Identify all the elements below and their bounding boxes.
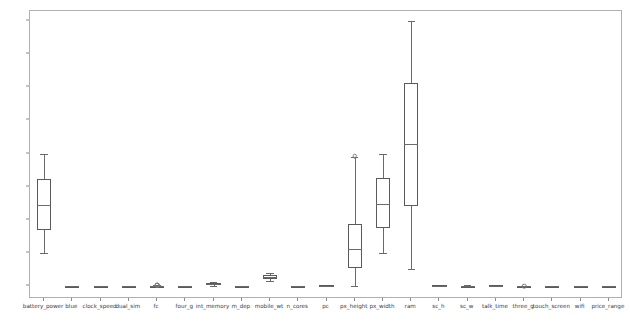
- x-axis-tick-label: clock_speed: [83, 304, 117, 310]
- box-plots-layer: [30, 11, 621, 297]
- x-axis-tick-label: px_height: [340, 304, 368, 310]
- x-axis-tick-label: price_range: [591, 304, 624, 310]
- x-axis-tick-mark: [269, 298, 270, 301]
- x-axis-tick-label: sc_h: [432, 304, 444, 310]
- x-axis-tick-mark: [551, 298, 552, 301]
- x-axis-tick-label: sc_w: [460, 304, 473, 310]
- x-axis-tick-label: m_dep: [231, 304, 250, 310]
- x-axis-tick-mark: [43, 298, 44, 301]
- x-axis-tick-label: n_cores: [287, 304, 308, 310]
- x-axis-tick-label: pc: [322, 304, 329, 310]
- x-axis-tick-label: mobile_wt: [255, 304, 284, 310]
- x-axis-tick-label: int_memory: [196, 304, 229, 310]
- x-axis-tick-label: three_g: [513, 304, 534, 310]
- x-axis-tick-mark: [382, 298, 383, 301]
- x-axis-tick-mark: [213, 298, 214, 301]
- x-axis-tick-mark: [71, 298, 72, 301]
- plot-area: [29, 10, 622, 298]
- x-axis-tick-mark: [523, 298, 524, 301]
- x-axis-tick-label: battery_power: [23, 304, 64, 310]
- x-axis-tick-mark: [241, 298, 242, 301]
- x-axis-tick-mark: [608, 298, 609, 301]
- x-axis-tick-mark: [326, 298, 327, 301]
- x-axis-tick-label: blue: [65, 304, 77, 310]
- x-axis-tick-label: wifi: [575, 304, 585, 310]
- x-axis-tick-mark: [467, 298, 468, 301]
- boxplot-figure: 05001000150020002500300035004000 battery…: [0, 0, 630, 324]
- x-axis-tick-mark: [156, 298, 157, 301]
- x-axis-tick-label: fc: [154, 304, 159, 310]
- x-axis-tick-label: four_g: [176, 304, 194, 310]
- x-axis-tick-label: dual_sim: [115, 304, 140, 310]
- x-axis-tick-mark: [438, 298, 439, 301]
- x-axis-tick-label: talk_time: [482, 304, 508, 310]
- x-axis-tick-mark: [184, 298, 185, 301]
- x-axis-tick-mark: [100, 298, 101, 301]
- box-plot-price_range: [30, 11, 621, 297]
- x-axis-tick-label: ram: [405, 304, 416, 310]
- x-axis-tick-label: px_width: [369, 304, 394, 310]
- x-axis-tick-mark: [354, 298, 355, 301]
- x-axis-tick-mark: [495, 298, 496, 301]
- x-axis-tick-mark: [410, 298, 411, 301]
- x-axis-tick-mark: [580, 298, 581, 301]
- median-line: [602, 286, 616, 287]
- x-axis-tick-mark: [297, 298, 298, 301]
- x-axis-tick-mark: [128, 298, 129, 301]
- x-axis-tick-label: touch_screen: [533, 304, 570, 310]
